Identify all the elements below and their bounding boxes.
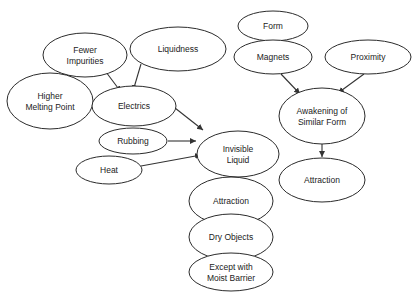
node-label: Rubbing (117, 136, 149, 146)
edge-proximity-to-awakening-similar-form (338, 74, 364, 93)
node-label: Heat (100, 165, 119, 175)
node-fewer-impurities: FewerImpurities (43, 33, 127, 77)
node-label: Liquid (227, 155, 250, 165)
node-label: Higher (37, 91, 62, 101)
node-label: Except with (209, 262, 253, 272)
node-label: Form (263, 21, 283, 31)
node-label: Electrics (118, 101, 150, 111)
node-label: Dry Objects (209, 232, 253, 242)
node-higher-melting-point: HigherMelting Point (7, 73, 93, 129)
concept-map-canvas: FewerImpuritiesLiquidnessHigherMelting P… (0, 0, 419, 292)
node-attraction-right: Attraction (279, 158, 365, 202)
node-invisible-liquid: InvisibleLiquid (197, 131, 279, 177)
node-except-moist-barrier: Except withMoist Barrier (189, 253, 273, 291)
node-label: Magnets (257, 52, 290, 62)
node-label: Invisible (223, 144, 254, 154)
node-proximity: Proximity (325, 40, 411, 74)
node-heat: Heat (76, 156, 142, 184)
node-label: Proximity (351, 52, 387, 62)
node-liquidness: Liquidness (130, 27, 226, 71)
node-label: Melting Point (25, 102, 75, 112)
node-rubbing: Rubbing (99, 128, 167, 154)
node-awakening-similar-form: Awakening ofSimilar Form (279, 88, 365, 144)
node-electrics: Electrics (92, 86, 176, 126)
nodes-layer: FewerImpuritiesLiquidnessHigherMelting P… (7, 11, 411, 291)
node-label: Awakening of (297, 106, 349, 116)
node-label: Moist Barrier (207, 273, 255, 283)
node-label: Attraction (213, 196, 249, 206)
edge-magnets-to-awakening-similar-form (281, 74, 300, 94)
node-magnets: Magnets (234, 40, 312, 74)
edge-electrics-to-invisible-liquid (175, 108, 203, 130)
node-label: Fewer (73, 45, 97, 55)
node-label: Similar Form (298, 117, 346, 127)
node-label: Attraction (304, 175, 340, 185)
node-label: Impurities (67, 56, 104, 66)
node-label: Liquidness (158, 44, 199, 54)
edge-heat-to-invisible-liquid (141, 155, 201, 166)
node-form: Form (238, 11, 308, 41)
